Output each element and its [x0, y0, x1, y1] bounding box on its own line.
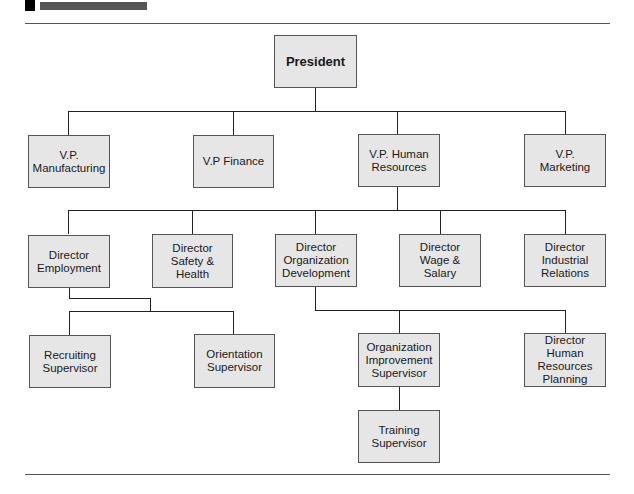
connector [565, 210, 566, 234]
connector [233, 111, 234, 135]
node-label: Training Supervisor [372, 424, 427, 450]
node-recruiting-supervisor: Recruiting Supervisor [29, 335, 111, 388]
node-label: Director Wage & Salary [420, 241, 460, 280]
connector [565, 310, 566, 333]
connector [69, 298, 150, 299]
node-director-wage-salary: Director Wage & Salary [399, 234, 481, 287]
connector [69, 287, 70, 298]
node-director-employment: Director Employment [28, 235, 110, 288]
node-label: Organization Improvement Supervisor [365, 341, 432, 380]
bottom-rule [25, 474, 610, 475]
node-label: V.P Finance [203, 155, 264, 168]
node-label: V.P. Manufacturing [33, 149, 106, 175]
connector [440, 210, 441, 234]
node-label: Director Organization Development [282, 241, 350, 280]
connector [397, 187, 398, 210]
node-label: President [286, 55, 345, 68]
node-vp-manufacturing: V.P. Manufacturing [28, 135, 110, 188]
node-president: President [274, 35, 357, 88]
node-vp-marketing: V.P. Marketing [524, 134, 606, 187]
node-label: V.P. Marketing [540, 148, 591, 174]
node-director-hr-planning: Director Human Resources Planning [524, 333, 606, 387]
node-label: V.P. Human Resources [369, 148, 428, 174]
connector [315, 310, 566, 311]
connector [68, 111, 566, 112]
connector [315, 287, 316, 310]
connector [315, 87, 316, 111]
node-label: Orientation Supervisor [206, 348, 262, 374]
connector [233, 311, 234, 335]
connector [68, 210, 69, 234]
connector [397, 111, 398, 135]
header-marker [25, 0, 35, 11]
connector [150, 298, 151, 311]
node-training-supervisor: Training Supervisor [358, 410, 440, 463]
connector [69, 311, 70, 335]
node-director-safety-health: Director Safety & Health [152, 234, 233, 288]
node-vp-finance: V.P Finance [193, 135, 274, 188]
header-title-bar [40, 2, 147, 10]
connector [69, 311, 234, 312]
node-director-industrial-relations: Director Industrial Relations [524, 234, 606, 287]
connector [565, 111, 566, 135]
node-orientation-supervisor: Orientation Supervisor [194, 334, 275, 388]
node-label: Director Human Resources Planning [538, 334, 593, 386]
connector [399, 386, 400, 410]
node-label: Recruiting Supervisor [43, 349, 98, 375]
connector [192, 210, 193, 234]
connector [399, 310, 400, 333]
node-label: Director Employment [37, 249, 101, 275]
node-label: Director Safety & Health [171, 242, 214, 281]
connector [68, 111, 69, 135]
connector [68, 210, 566, 211]
node-director-org-development: Director Organization Development [275, 234, 357, 287]
node-vp-human-resources: V.P. Human Resources [358, 134, 440, 187]
node-label: Director Industrial Relations [541, 241, 589, 280]
connector [315, 210, 316, 234]
top-rule [25, 23, 610, 24]
node-org-improvement-supervisor: Organization Improvement Supervisor [358, 333, 440, 387]
